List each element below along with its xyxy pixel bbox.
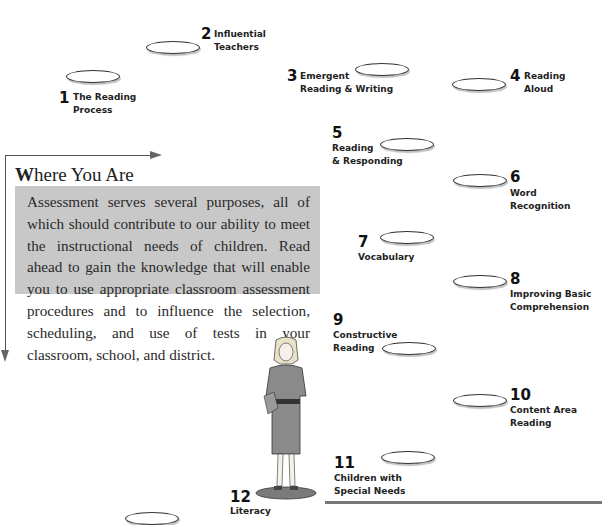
stop-5-number: 5	[332, 126, 342, 141]
stop-6-label: WordRecognition	[510, 187, 570, 213]
stop-2-marker	[146, 41, 200, 54]
stop-8-marker	[453, 275, 507, 288]
stop-1-marker	[66, 70, 120, 83]
arrow-right-icon	[150, 151, 162, 159]
stop-8-number: 8	[510, 272, 520, 287]
where-you-are-title: Where You Are	[15, 164, 134, 186]
arrow-down-icon	[1, 350, 9, 362]
stop-11-marker	[381, 451, 435, 464]
stop-11-label: Children withSpecial Needs	[334, 472, 405, 498]
stop-4-label: ReadingAloud	[524, 70, 565, 96]
stop-7-number: 7	[358, 235, 368, 250]
stop-6-number: 6	[510, 170, 520, 185]
stop-12-label: Literacy	[230, 505, 271, 518]
stop-1-number: 1	[59, 91, 69, 106]
stop-11-number: 11	[334, 456, 355, 471]
frame-left-line	[5, 155, 6, 353]
bottom-divider	[325, 501, 602, 504]
teacher-figure-illustration	[252, 336, 318, 501]
stop-3-number: 3	[287, 69, 297, 84]
stop-4-marker	[452, 78, 506, 91]
stop-10-marker	[453, 394, 507, 407]
stop-3-label: EmergentReading & Writing	[300, 70, 393, 96]
stop-4-number: 4	[510, 69, 520, 84]
stop-9-marker	[382, 342, 436, 355]
stop-7-marker	[380, 231, 434, 244]
stop-2-number: 2	[201, 27, 211, 42]
stop-6-marker	[453, 174, 507, 187]
stop-5-label: Reading& Responding	[332, 142, 403, 168]
stop-10-number: 10	[510, 388, 531, 403]
stop-13-marker-partial	[125, 512, 179, 525]
stop-1-label: The ReadingProcess	[73, 91, 136, 117]
stop-10-label: Content AreaReading	[510, 404, 577, 430]
frame-top-line	[5, 155, 155, 156]
stop-2-label: InfluentialTeachers	[214, 28, 266, 54]
stop-9-number: 9	[333, 313, 343, 328]
stop-12-number: 12	[230, 490, 251, 505]
stop-8-label: Improving BasicComprehension	[510, 288, 591, 314]
where-you-are-box: Assessment serves several purposes, all …	[15, 186, 320, 294]
stop-7-label: Vocabulary	[358, 251, 414, 264]
